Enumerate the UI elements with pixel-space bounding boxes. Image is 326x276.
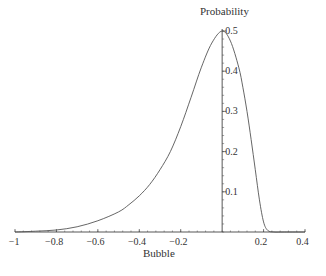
x-tick-label: −0.4 [128, 236, 146, 247]
density-chart [0, 0, 326, 276]
y-tick-label: 0.1 [225, 186, 238, 197]
x-tick-label: 0.4 [296, 236, 309, 247]
x-tick-label: 0.2 [255, 236, 268, 247]
x-tick-label: −0.6 [86, 236, 104, 247]
density-curve [15, 31, 305, 232]
x-tick-label: −0.2 [169, 236, 187, 247]
y-axis [222, 29, 226, 232]
y-tick-label: 0.3 [225, 105, 238, 116]
y-tick-label: 0.5 [225, 25, 238, 36]
y-tick-label: 0.2 [225, 146, 238, 157]
x-axis-label: Bubble [143, 247, 175, 259]
x-tick-label: −0.8 [45, 236, 63, 247]
y-tick-label: 0.4 [225, 65, 238, 76]
x-tick-label: −1 [9, 236, 20, 247]
figure-caption-faded [70, 266, 320, 276]
y-axis-label: Probability [200, 5, 249, 17]
